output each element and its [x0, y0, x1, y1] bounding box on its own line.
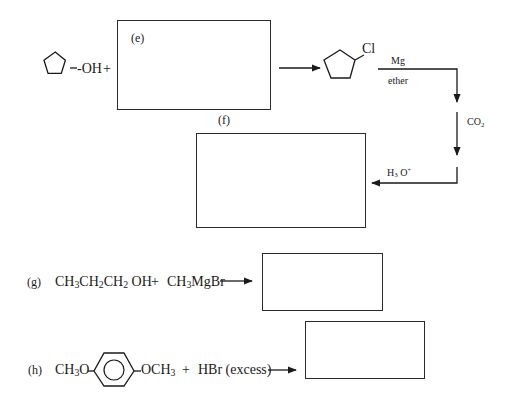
reagent-ether: ether — [388, 76, 408, 86]
cyclopentane-ring-reactant — [44, 52, 77, 73]
plus-sign-e: + — [103, 62, 111, 76]
methoxy-left: CH3O — [55, 363, 89, 378]
box-label-f: (f) — [218, 114, 230, 126]
reaction-arrow-h3o — [372, 167, 457, 183]
answer-box-e[interactable]: (e) — [117, 20, 271, 110]
answer-box-f[interactable] — [196, 133, 366, 228]
answer-box-h[interactable] — [305, 321, 425, 379]
methylmagnesium-bromide: CH3MgBr — [167, 275, 225, 290]
reagent-co2: CO2 — [467, 117, 484, 129]
answer-box-g[interactable] — [262, 253, 383, 311]
reagent-mg: Mg — [391, 56, 405, 66]
chloro-group: Cl — [362, 42, 375, 56]
reagent-h3o-plus: H3 O+ — [387, 167, 411, 179]
question-label-g: (g) — [27, 276, 41, 288]
plus-sign-h: + — [182, 363, 190, 377]
plus-sign-g: + — [151, 275, 159, 289]
cyclopentane-ring-product — [324, 50, 364, 78]
box-label-e: (e) — [131, 32, 144, 44]
hbr-excess: HBr (excess) — [198, 363, 271, 377]
hydroxyl-group: -OH — [77, 62, 102, 76]
methoxy-right: OCH3 — [141, 363, 175, 378]
question-label-h: (h) — [28, 364, 42, 376]
propanol-formula: CH3CH2CH2 OH — [55, 275, 152, 290]
benzene-ring — [88, 353, 141, 386]
